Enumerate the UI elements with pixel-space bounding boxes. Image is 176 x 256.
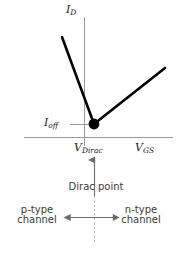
curve-p-branch xyxy=(62,37,94,124)
p-type-channel-caption: p-typechannel xyxy=(8,205,66,225)
p-type-channel-line2: channel xyxy=(8,215,66,225)
y-axis-label-subscript: D xyxy=(70,8,76,17)
n-type-channel-line2: channel xyxy=(112,215,170,225)
n-type-channel-caption: n-typechannel xyxy=(112,205,170,225)
graphene-fet-transfer-characteristic-figure: ID Ioff VDirac VGS Dirac point p-typecha… xyxy=(0,0,176,256)
y-axis-label: ID xyxy=(66,4,76,16)
curve-n-branch xyxy=(94,68,165,124)
dirac-point-caption: Dirac point xyxy=(48,182,144,192)
i-off-label-subscript: off xyxy=(48,121,58,130)
x-axis-label-main: V xyxy=(135,141,143,154)
v-dirac-label: VDirac xyxy=(74,142,103,154)
i-off-label: Ioff xyxy=(44,117,58,129)
x-axis-label: VGS xyxy=(135,142,154,154)
x-axis-label-subscript: GS xyxy=(143,146,154,155)
v-dirac-label-subscript: Dirac xyxy=(82,146,103,155)
v-dirac-label-main: V xyxy=(74,141,82,154)
dirac-point-marker xyxy=(89,119,100,130)
